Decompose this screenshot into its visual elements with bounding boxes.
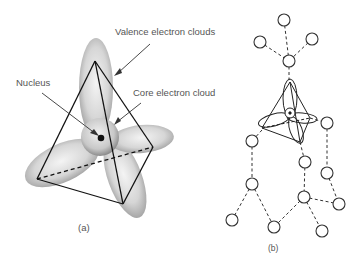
caption-a: (a) [78, 222, 90, 233]
label-valence-clouds: Valence electron clouds [115, 26, 215, 37]
atom-nodes [226, 14, 345, 237]
caption-b: (b) [268, 243, 278, 253]
label-core-cloud: Core electron cloud [133, 87, 215, 98]
central-atom [257, 79, 317, 145]
label-nucleus: Nucleus [16, 77, 50, 88]
diagram-canvas [0, 0, 363, 265]
